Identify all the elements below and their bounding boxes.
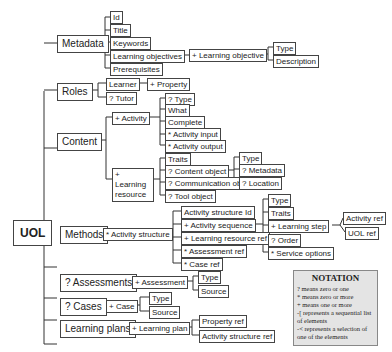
- uol-tree-diagram: UOL Metadata Id Title Keywords Learning …: [0, 0, 392, 352]
- uol-root-node[interactable]: UOL: [13, 220, 52, 246]
- methods-node[interactable]: Methods: [60, 226, 108, 244]
- service-options-node[interactable]: * Service options: [268, 247, 334, 260]
- assessment-source-node[interactable]: Source: [198, 285, 229, 298]
- learning-resource-ref-node[interactable]: + Learning resource ref: [181, 232, 270, 245]
- activity-output-node[interactable]: * Activity output: [165, 140, 226, 153]
- roles-node[interactable]: Roles: [57, 83, 93, 101]
- assessments-node[interactable]: ? Assessments: [60, 274, 137, 292]
- learning-resource-node[interactable]: + Learning resource: [112, 168, 154, 202]
- metadata-node[interactable]: Metadata: [57, 35, 109, 53]
- notation-line: -[ represents a sequential list of eleme…: [297, 309, 374, 325]
- cases-node[interactable]: ? Cases: [60, 298, 107, 316]
- case-source-node[interactable]: Source: [149, 306, 180, 319]
- activity-structure-ref-node[interactable]: Activity structure ref: [199, 330, 275, 343]
- notation-legend: NOTATION ? means zero or one * means zer…: [293, 270, 378, 346]
- notation-line: -< represents a selection of one of the …: [297, 325, 374, 341]
- activity-node[interactable]: + Activity: [112, 112, 150, 125]
- assessment-ref-node[interactable]: * Assessment ref: [181, 245, 247, 258]
- property-ref-node[interactable]: Property ref: [199, 315, 247, 328]
- notation-line: + means one or more: [297, 301, 374, 309]
- title-node[interactable]: Title: [110, 24, 131, 37]
- prerequisites-node[interactable]: Prerequisites: [110, 63, 163, 76]
- activity-sequence-node[interactable]: + Activity sequence: [181, 219, 256, 232]
- notation-line: ? means zero or one: [297, 285, 374, 293]
- co-metadata-node[interactable]: ? Metadata: [239, 164, 285, 177]
- learning-step-node[interactable]: + Learning step: [268, 220, 329, 233]
- id-node[interactable]: Id: [110, 11, 123, 24]
- case-type-node[interactable]: Type: [149, 292, 172, 305]
- learning-plans-node[interactable]: Learning plans: [60, 320, 136, 338]
- keywords-node[interactable]: Keywords: [110, 37, 151, 50]
- assessment-node[interactable]: + Assessment: [132, 276, 188, 289]
- tool-object-node[interactable]: ? Tool object: [165, 190, 216, 203]
- activity-structure-id-node[interactable]: Activity structure Id: [181, 206, 255, 219]
- activity-ref-node[interactable]: Activity ref: [343, 212, 386, 225]
- tutor-node[interactable]: ? Tutor: [106, 92, 137, 105]
- activity-structure-node[interactable]: * Activity structure: [103, 228, 173, 241]
- learning-objectives-node[interactable]: Learning objectives: [110, 50, 185, 63]
- content-node[interactable]: Content: [57, 133, 102, 151]
- order-node[interactable]: ? Order: [268, 234, 301, 247]
- learner-node[interactable]: Learner: [106, 78, 140, 91]
- uol-ref-node[interactable]: UOL ref: [345, 227, 379, 240]
- sequence-type-node[interactable]: Type: [268, 194, 291, 207]
- sequence-traits-node[interactable]: Traits: [268, 207, 294, 220]
- property-node[interactable]: + Property: [147, 78, 190, 91]
- co-location-node[interactable]: ? Location: [239, 177, 282, 190]
- assessment-type-node[interactable]: Type: [198, 271, 221, 284]
- learning-plan-node[interactable]: + Learning plan: [129, 322, 190, 335]
- lo-description-node[interactable]: Description: [273, 55, 319, 68]
- learning-objective-node[interactable]: + Learning objective: [189, 49, 267, 62]
- case-ref-node[interactable]: * Case ref: [181, 258, 223, 271]
- lo-type-node[interactable]: Type: [273, 42, 296, 55]
- notation-line: * means zero or more: [297, 293, 374, 301]
- case-node[interactable]: + Case: [106, 300, 138, 313]
- notation-title: NOTATION: [297, 273, 374, 284]
